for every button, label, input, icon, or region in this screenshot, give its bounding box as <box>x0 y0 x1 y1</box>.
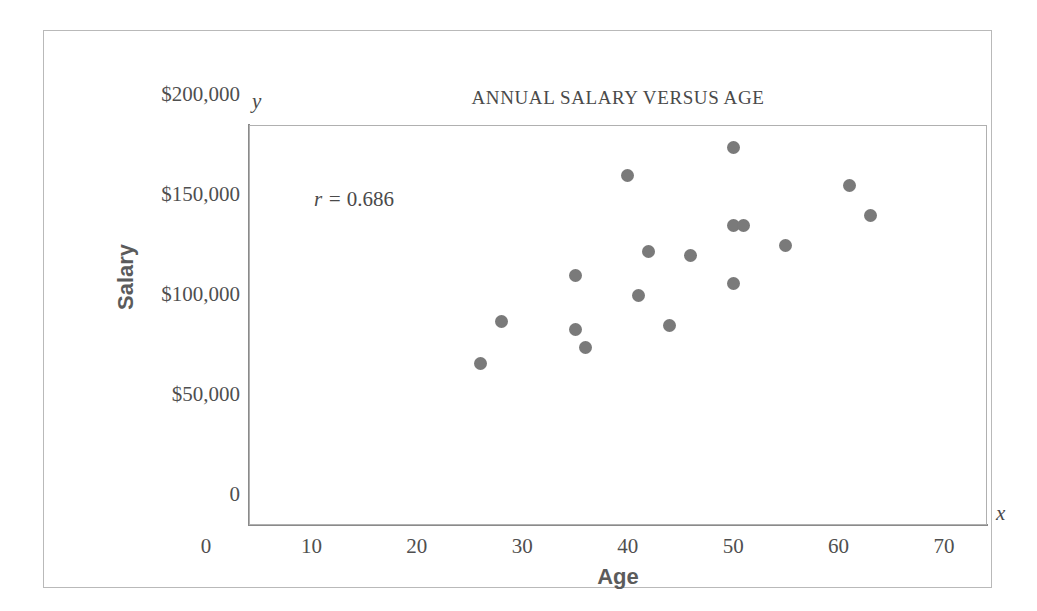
data-point <box>632 289 645 302</box>
y-tick-label: $50,000 <box>172 382 240 407</box>
x-tick-label: 60 <box>809 534 869 559</box>
data-point <box>684 249 697 262</box>
y-tick-label: $150,000 <box>161 182 240 207</box>
x-tick-label: 40 <box>598 534 658 559</box>
data-point <box>569 269 582 282</box>
correlation-symbol: r = <box>314 187 342 211</box>
x-axis-title: Age <box>249 564 987 590</box>
plot-area <box>249 125 987 525</box>
x-tick-label: 20 <box>387 534 447 559</box>
data-point <box>779 239 792 252</box>
data-point <box>727 277 740 290</box>
x-tick-label: 10 <box>281 534 341 559</box>
correlation-value: 0.686 <box>347 187 394 211</box>
x-tick-label: 50 <box>703 534 763 559</box>
correlation-annotation: r = 0.686 <box>314 187 394 212</box>
x-tick-label: 30 <box>492 534 552 559</box>
y-tick-label: $200,000 <box>161 82 240 107</box>
x-tick-label: 70 <box>914 534 974 559</box>
data-point <box>579 341 592 354</box>
y-axis-tick-labels: 0$50,000$100,000$150,000$200,000 <box>44 31 240 611</box>
data-point <box>843 179 856 192</box>
x-tick-label: 0 <box>176 534 236 559</box>
data-point <box>495 315 508 328</box>
data-point <box>474 357 487 370</box>
y-tick-label: $100,000 <box>161 282 240 307</box>
data-point <box>642 245 655 258</box>
chart-title: ANNUAL SALARY VERSUS AGE <box>249 87 987 109</box>
data-point <box>727 141 740 154</box>
x-axis-variable-label: x <box>996 501 1005 526</box>
y-tick-label: 0 <box>230 482 241 507</box>
y-axis-variable-label: y <box>252 89 261 114</box>
data-point <box>569 323 582 336</box>
data-point <box>737 219 750 232</box>
data-point <box>663 319 676 332</box>
data-point <box>864 209 877 222</box>
y-axis-title: Salary <box>113 244 139 310</box>
data-point <box>621 169 634 182</box>
figure-border: ANNUAL SALARY VERSUS AGE y x 0$50,000$10… <box>43 30 992 588</box>
